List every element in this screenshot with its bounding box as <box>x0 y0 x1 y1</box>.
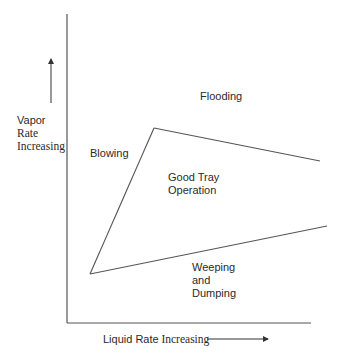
tray-operation-diagram: Vapor Rate Increasing Liquid Rate Increa… <box>0 0 343 357</box>
y-label-line2: Rate <box>17 127 38 140</box>
y-label-line3: Increasing <box>17 140 65 153</box>
region-weeping-line3: Dumping <box>192 287 236 300</box>
region-good-tray-line2: Operation <box>168 184 216 197</box>
region-good-tray-line1: Good Tray <box>168 171 219 184</box>
region-flooding: Flooding <box>200 90 242 103</box>
flooding-boundary <box>154 128 320 161</box>
x-label-part2: Increasing <box>161 333 209 345</box>
region-weeping-line2: and <box>192 274 210 287</box>
x-label: Liquid Rate Increasing <box>103 333 209 346</box>
y-label-line1: Vapor <box>17 114 46 127</box>
region-weeping-line1: Weeping <box>192 261 235 274</box>
region-blowing: Blowing <box>90 147 129 160</box>
x-label-part1: Liquid Rate <box>103 333 159 345</box>
